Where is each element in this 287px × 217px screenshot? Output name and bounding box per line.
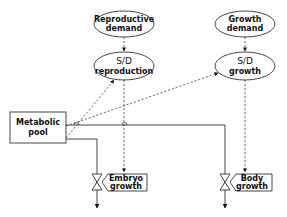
node-label-line2: growth <box>229 67 261 76</box>
node-sd-growth: S/D growth <box>215 52 275 80</box>
node-label-line2: pool <box>28 128 48 137</box>
node-label-line2: demand <box>227 24 264 33</box>
node-label-line2: growth <box>236 182 268 191</box>
node-label-line2: reproduction <box>95 67 154 76</box>
node-label-line1: Growth <box>229 15 262 24</box>
node-growth-demand: Growth demand <box>215 11 275 37</box>
info-link-pool-to-sd-reproduction <box>66 80 114 138</box>
flow-diagram: Reproductive demand S/D reproduction Gro… <box>0 0 287 217</box>
node-body-growth: Body growth <box>220 174 272 191</box>
flow-pipe-to-body-growth <box>66 123 225 209</box>
node-reproductive-demand: Reproductive demand <box>94 11 155 37</box>
node-metabolic-pool: Metabolic pool <box>10 112 66 143</box>
node-label-line1: Reproductive <box>94 15 155 24</box>
node-sd-reproduction: S/D reproduction <box>94 52 154 80</box>
node-label-line2: growth <box>110 182 142 191</box>
flow-pipe-to-embryo-growth <box>66 139 97 208</box>
node-label-line2: demand <box>106 24 143 33</box>
node-label-line1: S/D <box>237 56 253 66</box>
node-label-line1: Metabolic <box>16 118 60 127</box>
valve-icon <box>220 174 230 190</box>
valve-icon <box>92 174 102 190</box>
node-label-line1: S/D <box>116 56 132 66</box>
node-embryo-growth: Embryo growth <box>92 174 147 191</box>
info-link-pool-to-sd-growth <box>66 73 218 126</box>
